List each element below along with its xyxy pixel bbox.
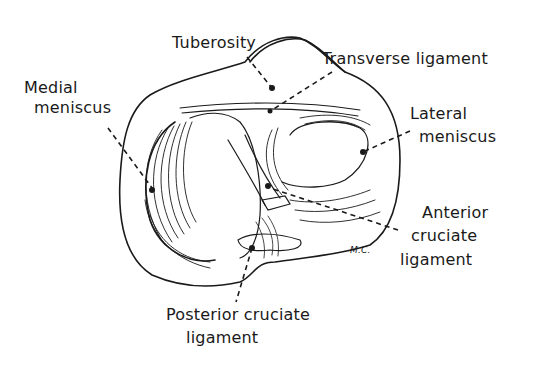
label-medial-meniscus-1: Medial [24, 78, 78, 98]
knee-diagram: Tuberosity Transverse ligament Medial me… [0, 0, 544, 366]
label-posterior-cruciate-2: ligament [186, 328, 258, 348]
label-transverse-ligament: Transverse ligament [322, 49, 488, 69]
medial-meniscus-leader [108, 128, 152, 188]
label-anterior-cruciate-1: Anterior [422, 203, 488, 223]
label-lateral-meniscus-1: Lateral [410, 104, 467, 124]
lateral-meniscus-leader [365, 131, 410, 151]
artist-signature: M.C. [350, 240, 371, 260]
label-lateral-meniscus-2: meniscus [419, 127, 496, 147]
label-tuberosity: Tuberosity [172, 33, 256, 53]
label-anterior-cruciate-3: ligament [400, 250, 472, 270]
anterior-cruciate-leader [270, 188, 398, 230]
label-anterior-cruciate-2: cruciate [411, 226, 477, 246]
label-medial-meniscus-2: meniscus [34, 98, 111, 118]
label-posterior-cruciate-1: Posterior cruciate [166, 305, 310, 325]
